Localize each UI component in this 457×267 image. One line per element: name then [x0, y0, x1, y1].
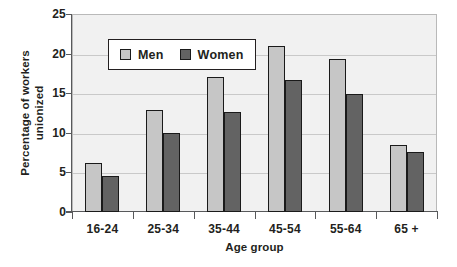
bar-women-45to54: [285, 80, 302, 212]
y-axis-tick-mark: [66, 54, 72, 55]
x-axis-tick-label: 65 +: [376, 222, 437, 236]
x-axis-tick-mark: [194, 212, 195, 219]
bar-women-55to64: [346, 94, 363, 212]
legend-label-women: Women: [198, 48, 244, 62]
gridline: [73, 94, 436, 95]
y-axis-tick-mark: [66, 172, 72, 173]
x-axis-tick-mark: [133, 212, 134, 219]
x-axis-tick-mark: [376, 212, 377, 219]
y-axis-tick-label: 0: [42, 206, 66, 218]
bar-men-45to54: [268, 46, 285, 212]
bar-men-16to24: [85, 163, 102, 212]
y-axis-tick-label: 20: [42, 48, 66, 60]
legend-item-women: Women: [180, 48, 244, 62]
bar-men-55to64: [329, 59, 346, 212]
bar-women-16to24: [102, 176, 119, 212]
x-axis-title: Age group: [72, 241, 437, 253]
legend-swatch-women: [180, 49, 191, 60]
legend-swatch-men: [120, 49, 131, 60]
x-axis-tick-label: 16-24: [72, 222, 133, 236]
y-axis-tick-label: 5: [42, 166, 66, 178]
y-axis-tick-label: 10: [42, 127, 66, 139]
x-axis-tick-mark: [72, 212, 73, 219]
y-axis-tick-labels: 0510152025: [40, 0, 66, 267]
legend-item-men: Men: [120, 48, 164, 62]
x-axis-tick-label: 25-34: [133, 222, 194, 236]
x-axis-tick-mark: [255, 212, 256, 219]
x-axis-tick-label: 35-44: [194, 222, 255, 236]
y-axis-tick-mark: [66, 14, 72, 15]
y-axis-tick-mark: [66, 93, 72, 94]
bar-women-35to44: [224, 112, 241, 212]
x-axis-tick-label: 45-54: [255, 222, 316, 236]
x-axis-tick-label: 55-64: [315, 222, 376, 236]
bar-men-25to34: [146, 110, 163, 212]
gridline: [73, 134, 436, 135]
chart-legend: Men Women: [108, 39, 256, 70]
x-axis-line: [66, 211, 438, 212]
bar-men-35to44: [207, 77, 224, 212]
y-axis-tick-mark: [66, 133, 72, 134]
legend-label-men: Men: [138, 48, 164, 62]
y-axis-tick-label: 25: [42, 8, 66, 20]
bar-chart-figure: Percentage of workers unionized 05101520…: [0, 0, 457, 267]
x-axis-tick-mark: [315, 212, 316, 219]
y-axis-tick-mark: [66, 212, 72, 213]
bar-men-65: [390, 145, 407, 212]
bar-women-65: [407, 152, 424, 212]
bar-women-25to34: [163, 133, 180, 212]
y-axis-line: [71, 14, 72, 212]
y-axis-tick-label: 15: [42, 87, 66, 99]
gridline: [73, 173, 436, 174]
x-axis-tick-mark: [437, 212, 438, 219]
y-axis-title-line1: Percentage of workers: [19, 50, 33, 175]
